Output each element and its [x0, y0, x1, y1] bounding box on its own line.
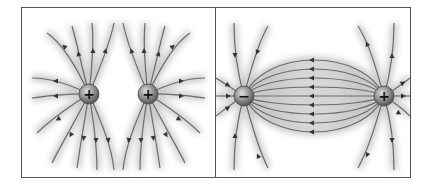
charge-sign-label: − [238, 88, 250, 104]
charge-sign-label: + [142, 86, 154, 102]
field-lines-like-charges: + + [22, 8, 215, 177]
negative-charge: − [234, 86, 254, 106]
positive-charge-right: + [138, 84, 158, 104]
panel-like-charges: + + [22, 8, 215, 177]
field-lines-dipole: − + [216, 8, 410, 177]
charge-sign-label: + [378, 88, 390, 104]
charge-sign-label: + [83, 86, 95, 102]
positive-charge: + [374, 86, 394, 106]
panel-opposite-charges: − + [216, 8, 410, 177]
positive-charge-left: + [79, 84, 99, 104]
figure-frame: + + [21, 7, 411, 178]
